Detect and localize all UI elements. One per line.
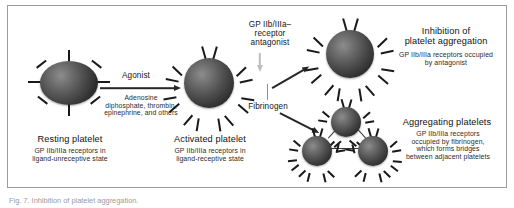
arrow-shaft (100, 87, 175, 89)
inhibited-platelet (326, 30, 374, 78)
aggregating-title: Aggregating platelets (388, 117, 506, 127)
aggregating-platelet (302, 136, 332, 166)
receptor-fork (290, 142, 301, 151)
receptor-bar (96, 81, 110, 83)
receptor-fork (323, 171, 333, 182)
receptor-fork (359, 85, 372, 100)
receptor-fork (378, 68, 393, 81)
figure-caption: Fig. 7. Inhibition of platelet aggregati… (9, 196, 509, 208)
receptor-fork (363, 113, 374, 122)
aggregating-subtitle: GP IIb/IIIa receptors occupied by fibrin… (388, 130, 508, 161)
arrow-head (257, 65, 263, 72)
fibrinogen-stem (267, 84, 268, 100)
activated-platelet-subtitle: GP IIb/IIIa receptors in ligand-receptiv… (153, 147, 267, 162)
antagonist-down-arrow (249, 53, 271, 61)
arrow-head (174, 85, 181, 91)
figure-container: Resting platelet GP IIb/IIIa receptors i… (0, 0, 514, 208)
activated-platelet-title: Activated platelet (155, 134, 265, 144)
aggregating-platelet (331, 107, 361, 137)
inhibition-arrow (270, 63, 312, 92)
receptor-bar (36, 60, 47, 69)
antagonist-label: GP IIb/IIIa– receptor antagonist (230, 20, 310, 48)
receptor-fork (308, 40, 323, 53)
diagram-panel: Resting platelet GP IIb/IIIa receptors i… (7, 5, 507, 188)
receptor-fork (391, 160, 402, 169)
receptor-fork (334, 142, 345, 151)
receptor-fork (289, 160, 300, 169)
platelet-body (358, 136, 388, 166)
arrow-shaft (272, 69, 305, 89)
receptor-bar (91, 60, 102, 69)
fibrinogen-label: Fibrinogen (236, 102, 300, 111)
receptor-fork (301, 171, 311, 182)
inhibition-subtitle: GP IIb/IIIa receptors occupied by antago… (382, 51, 510, 66)
receptor-fork (328, 85, 341, 100)
receptor-fork (319, 113, 330, 122)
receptor-fork (187, 115, 200, 130)
receptor-fork (307, 68, 322, 81)
resting-platelet-subtitle: GP IIb/IIIa receptors in ligand-unrecept… (12, 147, 128, 162)
platelet-body (326, 30, 374, 78)
agonist-label: Agonist (103, 71, 169, 80)
agonist-arrow (100, 84, 182, 92)
arrow-shaft (280, 112, 315, 131)
receptor-fork (357, 171, 367, 182)
receptor-fork (379, 171, 389, 182)
receptor-fork (167, 69, 182, 82)
aggregating-platelet (358, 136, 388, 166)
resting-platelet-title: Resting platelet (16, 134, 124, 144)
activated-platelet (184, 58, 234, 108)
inhibition-title: Inhibition of platelet aggregation (386, 26, 506, 47)
platelet-body (302, 136, 332, 166)
platelet-body (331, 107, 361, 137)
receptor-fork (218, 115, 231, 130)
platelet-body (184, 58, 234, 108)
receptor-fork (236, 69, 251, 82)
